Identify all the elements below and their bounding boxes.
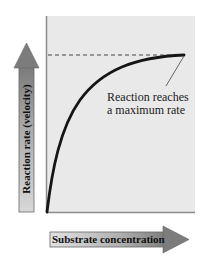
- max-rate-annotation: Reaction reaches a maximum rate: [107, 91, 199, 117]
- rate-curve: [47, 55, 184, 212]
- x-axis-label: Substrate concentration: [52, 232, 172, 247]
- annotation-line-2: a maximum rate: [107, 104, 199, 117]
- annotation-leader-line: [166, 56, 184, 86]
- chart-figure: Reaction rate (velocity) Substrate conce…: [0, 0, 202, 259]
- y-axis-label: Reaction rate (velocity): [19, 66, 34, 212]
